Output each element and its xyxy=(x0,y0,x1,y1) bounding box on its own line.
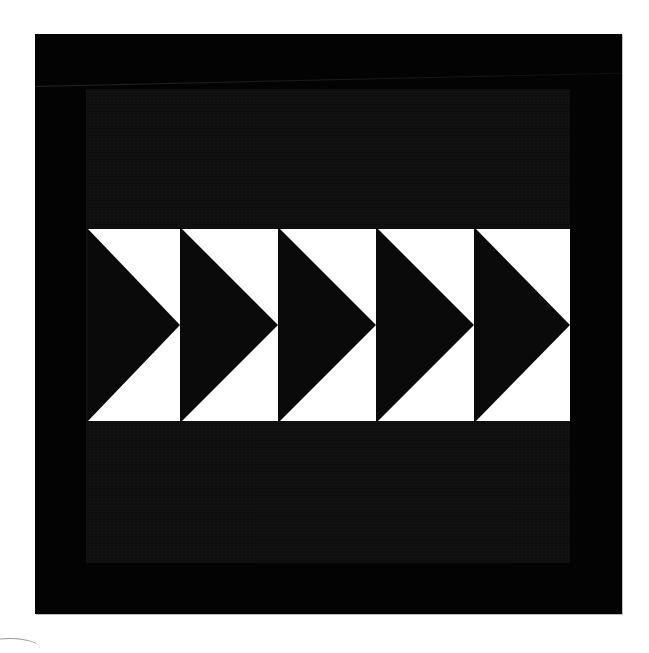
goose-triangle-icon xyxy=(476,229,570,421)
goose-block-3 xyxy=(280,229,376,421)
flying-geese-band xyxy=(88,229,570,421)
goose-block-2 xyxy=(182,229,278,421)
goose-triangle-icon xyxy=(280,229,376,421)
goose-block-4 xyxy=(378,229,474,421)
corner-arc-artifact xyxy=(0,638,40,653)
goose-block-5 xyxy=(476,229,570,421)
goose-triangle-icon xyxy=(378,229,474,421)
goose-triangle-icon xyxy=(182,229,278,421)
goose-block-1 xyxy=(88,229,180,421)
goose-triangle-icon xyxy=(88,229,180,421)
geese-row xyxy=(88,229,570,421)
